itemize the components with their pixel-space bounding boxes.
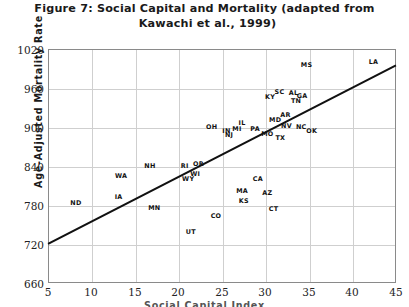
data-point-ia: IA [115,193,123,201]
data-point-la: LA [369,58,379,66]
data-point-wy: WY [182,175,194,183]
data-point-oh: OH [206,123,217,131]
figure-container: Figure 7: Social Capital and Mortality (… [0,0,409,307]
data-point-ct: CT [269,205,279,213]
data-point-nd: ND [70,199,81,207]
y-tick-900: 900 [0,122,44,134]
data-point-sc: SC [275,88,285,96]
data-point-ga: GA [297,92,308,100]
trendline [49,50,395,282]
y-tick-720: 720 [0,239,44,251]
y-tick-1020: 1020 [0,44,44,56]
chart-title-line-2: Kawachi et al., 1999) [0,16,409,31]
data-point-nc: NC [296,123,307,131]
x-tick-25: 25 [202,286,242,298]
data-point-ks: KS [239,197,249,205]
data-point-ut: UT [186,228,196,236]
x-axis-label: Social Capital Index [0,300,409,307]
chart-title-line-1: Figure 7: Social Capital and Mortality (… [0,1,409,16]
data-point-wa: WA [115,172,127,180]
y-tick-840: 840 [0,161,44,173]
data-point-mo: MO [261,130,273,138]
x-tick-10: 10 [71,286,111,298]
data-point-ar: AR [280,111,290,119]
data-point-co: CO [211,212,222,220]
data-point-or: OR [193,160,204,168]
data-point-pa: PA [250,125,260,133]
x-tick-20: 20 [158,286,198,298]
data-point-ca: CA [253,175,263,183]
data-point-nh: NH [144,162,155,170]
data-point-az: AZ [262,189,272,197]
plot-area: NDIAMNWANHRIORWIUTWYCOOHINNJMIILPAMOTXCA… [48,49,396,283]
y-tick-780: 780 [0,200,44,212]
x-tick-30: 30 [245,286,285,298]
x-tick-40: 40 [332,286,372,298]
x-tick-5: 5 [28,286,68,298]
data-point-ms: MS [301,61,313,69]
x-tick-45: 45 [376,286,409,298]
data-point-ri: RI [181,162,189,170]
chart-title: Figure 7: Social Capital and Mortality (… [0,1,409,31]
x-tick-35: 35 [289,286,329,298]
data-point-ok: OK [306,127,317,135]
data-point-tx: TX [275,134,285,142]
data-point-nv: NV [281,122,292,130]
x-tick-15: 15 [115,286,155,298]
y-tick-960: 960 [0,83,44,95]
data-point-ma: MA [236,187,248,195]
data-point-mn: MN [148,204,160,212]
data-point-il: IL [239,119,246,127]
